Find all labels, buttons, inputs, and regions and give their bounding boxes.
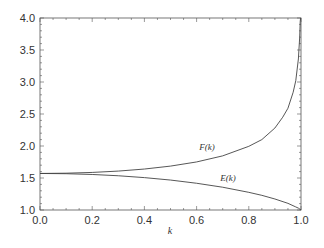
y-axis-ticks	[40, 18, 301, 210]
plot-frame	[40, 18, 301, 210]
y-tick-label: 1.5	[20, 172, 35, 184]
x-tick-label: 0.2	[85, 214, 100, 226]
y-tick-label: 3.0	[20, 76, 35, 88]
curve-labels: F(k)E(k)	[198, 142, 235, 183]
curves	[40, 18, 301, 210]
y-tick-label: 3.5	[20, 44, 35, 56]
curve-label: F(k)	[198, 142, 215, 152]
curve-label: E(k)	[219, 173, 236, 183]
y-tick-label: 2.5	[20, 108, 35, 120]
x-tick-label: 0.6	[189, 214, 204, 226]
y-tick-label: 1.0	[20, 204, 35, 216]
x-axis-ticks	[40, 18, 301, 210]
y-tick-label: 2.0	[20, 140, 35, 152]
x-tick-label: 0.8	[241, 214, 256, 226]
y-tick-label: 4.0	[20, 12, 35, 24]
x-tick-label: 0.4	[137, 214, 152, 226]
x-tick-label: 1.0	[293, 214, 308, 226]
elliptic-integral-chart: 0.00.20.40.60.81.0 1.01.52.02.53.03.54.0…	[0, 0, 324, 248]
curve-fk	[40, 18, 301, 173]
x-axis-label: k	[168, 225, 173, 236]
curve-ek	[40, 173, 301, 210]
y-axis-tick-labels: 1.01.52.02.53.03.54.0	[20, 12, 35, 216]
